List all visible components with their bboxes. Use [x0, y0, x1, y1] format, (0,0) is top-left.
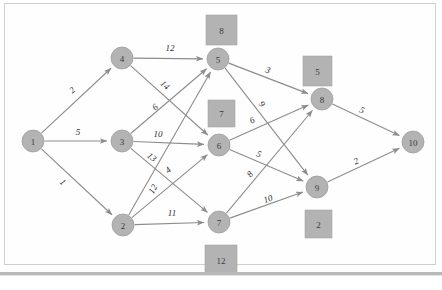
- node-label-10: 10: [409, 138, 419, 148]
- edge-4-to-5: [133, 58, 203, 59]
- edge-weight-2-6: 4: [163, 164, 173, 175]
- edge-8-to-10: [332, 104, 399, 136]
- node-label-7: 7: [217, 218, 222, 228]
- edge-weight-1-4: 2: [67, 84, 77, 95]
- edge-weight-3-6: 10: [154, 129, 164, 139]
- edge-weight-2-5: 12: [146, 182, 159, 195]
- node-label-5: 5: [216, 55, 221, 65]
- network-graph-svg: 857212 12345678910 251121461013124113965…: [0, 0, 442, 290]
- edge-5-to-9: [225, 68, 308, 175]
- diagram-page: 857212 12345678910 251121461013124113965…: [0, 0, 442, 290]
- edge-weight-4-6: 14: [158, 78, 172, 92]
- edge-2-to-7: [134, 222, 204, 224]
- edge-weight-6-9: 5: [255, 149, 264, 160]
- bottom-divider-shadow: [0, 275, 442, 276]
- edge-1-to-2: [41, 149, 112, 215]
- label-box-text-5: 5: [315, 67, 320, 77]
- edge-6-to-8: [230, 105, 309, 140]
- edge-weight-5-8: 3: [263, 64, 272, 75]
- edge-1-to-4: [41, 68, 111, 133]
- edge-3-to-7: [131, 148, 208, 212]
- label-box-text-12: 12: [217, 256, 226, 266]
- label-box-text-7: 7: [219, 109, 224, 119]
- edge-weight-5-9: 9: [257, 99, 268, 109]
- edge-weight-1-2: 1: [58, 177, 68, 187]
- label-box-text-8: 8: [219, 26, 224, 36]
- edge-weight-1-3: 5: [76, 127, 81, 137]
- node-label-4: 4: [120, 54, 125, 64]
- edge-weight-7-8: 8: [245, 169, 256, 179]
- node-label-3: 3: [120, 137, 125, 147]
- edge-weight-3-5: 6: [150, 101, 160, 112]
- edge-2-to-5: [129, 72, 211, 215]
- node-label-6: 6: [217, 141, 222, 151]
- edge-weight-6-8: 6: [248, 114, 257, 125]
- node-label-8: 8: [320, 95, 325, 105]
- node-label-1: 1: [31, 137, 36, 147]
- edge-weight-4-5: 12: [166, 43, 176, 53]
- label-box-text-2: 2: [316, 220, 321, 230]
- edge-weight-9-10: 2: [352, 155, 361, 166]
- node-label-9: 9: [315, 183, 320, 193]
- edge-weight-8-10: 5: [358, 105, 367, 116]
- node-label-2: 2: [121, 221, 126, 231]
- edge-3-to-6: [133, 141, 204, 144]
- edge-9-to-10: [327, 148, 399, 182]
- edge-weight-2-7: 11: [168, 208, 176, 218]
